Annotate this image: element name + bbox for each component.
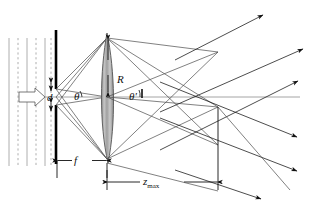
label-focal-length: f	[74, 155, 77, 166]
output-ray-up-3	[160, 81, 298, 150]
label-theta: θ	[74, 91, 79, 102]
label-zmax: zmax	[143, 176, 159, 190]
propagation-direction-arrow	[19, 88, 45, 106]
angle-arc-theta-prime	[139, 90, 140, 97]
output-ray-down-2	[160, 118, 297, 171]
output-ray-up-2	[160, 49, 303, 112]
focal-length-dimension	[57, 161, 107, 179]
incident-ray-bundle	[56, 38, 107, 159]
angle-arc-theta	[80, 91, 82, 97]
optics-ray-diagram: d θ θ′ R f zmax	[0, 0, 312, 211]
post-focus-rays	[107, 107, 290, 191]
label-lens-radius: R	[117, 74, 124, 85]
output-ray-up-1	[175, 15, 263, 60]
label-zmax-subscript: max	[147, 182, 159, 190]
output-rays	[160, 15, 303, 199]
biconvex-lens	[102, 33, 114, 163]
label-theta-prime: θ′	[129, 91, 137, 102]
label-aperture-width: d	[47, 92, 53, 103]
